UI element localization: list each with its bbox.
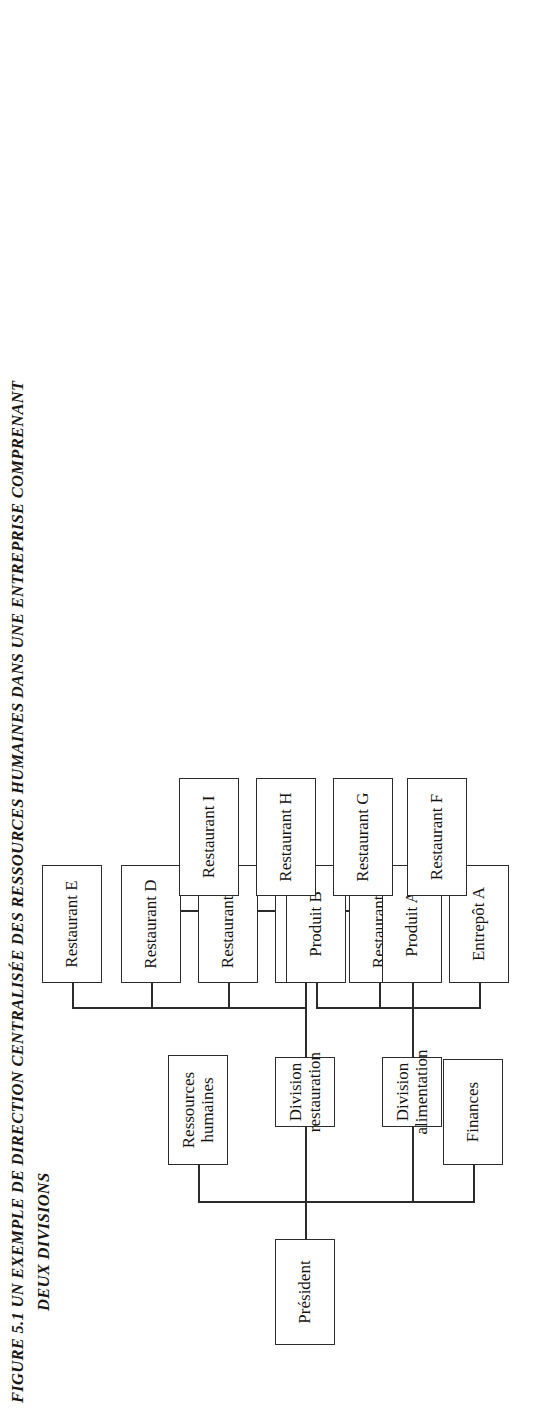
node-restaurant-h-label: Restaurant H <box>276 792 295 881</box>
edge-to-div-alim <box>412 1127 414 1203</box>
edge-div-alim-spine <box>316 1008 480 1010</box>
node-restaurant-f[interactable]: Restaurant F <box>407 778 467 896</box>
edge-to-div-resto <box>305 1127 307 1203</box>
node-finances[interactable]: Finances <box>443 1059 503 1165</box>
node-restaurant-e-label: Restaurant E <box>62 880 81 967</box>
node-entrepot-a-label: Entrepôt A <box>469 887 488 961</box>
node-division-alimentation-label: Division alimentation <box>393 1050 431 1135</box>
edge-to-restaurant-e <box>72 983 74 1009</box>
edge-to-restaurant-b <box>305 983 307 1009</box>
node-division-restauration[interactable]: Division restauration <box>275 1057 335 1127</box>
node-restaurant-i[interactable]: Restaurant I <box>179 778 239 896</box>
node-ressources-humaines-label: Ressources humaines <box>179 1072 217 1148</box>
node-finances-label: Finances <box>463 1082 482 1142</box>
node-restaurant-e[interactable]: Restaurant E <box>42 865 102 983</box>
node-division-restauration-label: Division restauration <box>286 1052 324 1132</box>
node-restaurant-f-label: Restaurant F <box>427 794 446 880</box>
edge-to-finances <box>473 1165 475 1203</box>
edge-to-restaurant-d <box>151 983 153 1009</box>
edge-to-restaurant-c <box>228 983 230 1009</box>
edge-to-rh <box>198 1165 200 1203</box>
org-chart: Président Ressources humaines Division r… <box>0 0 546 1409</box>
node-division-alimentation[interactable]: Division alimentation <box>382 1057 442 1127</box>
edge-div-resto-spine <box>72 1008 306 1010</box>
rotated-page-content: FIGURE 5.1 UN EXEMPLE DE DIRECTION CENTR… <box>0 0 546 1409</box>
edge-div-resto-out <box>305 1009 307 1057</box>
node-president-label: Président <box>295 1260 314 1323</box>
node-restaurant-h[interactable]: Restaurant H <box>256 778 316 896</box>
node-restaurant-g-label: Restaurant G <box>353 792 372 881</box>
edge-president-spine <box>198 1202 474 1204</box>
node-ressources-humaines[interactable]: Ressources humaines <box>168 1055 228 1165</box>
edge-to-produit-a <box>412 983 414 1009</box>
edge-president-stub <box>305 1202 307 1239</box>
node-restaurant-i-label: Restaurant I <box>199 796 218 879</box>
node-president[interactable]: Président <box>275 1239 335 1345</box>
node-produit-a-label: Produit A <box>402 891 421 957</box>
node-restaurant-d-label: Restaurant D <box>141 879 160 968</box>
edge-to-entrepot-a <box>479 983 481 1009</box>
node-restaurant-d[interactable]: Restaurant D <box>121 865 181 983</box>
node-restaurant-g[interactable]: Restaurant G <box>333 778 393 896</box>
edge-to-produit-b <box>316 983 318 1009</box>
edge-to-restaurant-a <box>379 983 381 1009</box>
node-produit-b-label: Produit B <box>306 891 325 957</box>
